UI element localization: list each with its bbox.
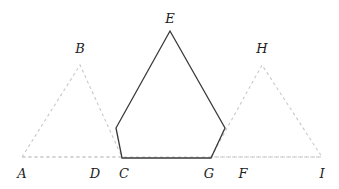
dashed-construction-lines	[22, 65, 322, 157]
solid-pentagon-group	[116, 31, 225, 158]
vertex-label-C: C	[119, 167, 129, 180]
vertex-label-E: E	[165, 12, 175, 25]
pentagon-shape	[116, 31, 225, 158]
vertex-label-I: I	[319, 167, 324, 180]
left-triangle-shape	[22, 65, 122, 157]
right-triangle-shape	[211, 65, 322, 157]
geometry-figure: A B C D E F G H I	[0, 0, 339, 189]
vertex-label-F: F	[238, 167, 247, 180]
vertex-label-B: B	[75, 42, 85, 55]
vertex-label-G: G	[204, 167, 214, 180]
vertex-label-D: D	[90, 167, 100, 180]
vertex-label-A: A	[17, 167, 26, 180]
vertex-label-H: H	[256, 42, 267, 55]
figure-canvas	[0, 0, 339, 189]
